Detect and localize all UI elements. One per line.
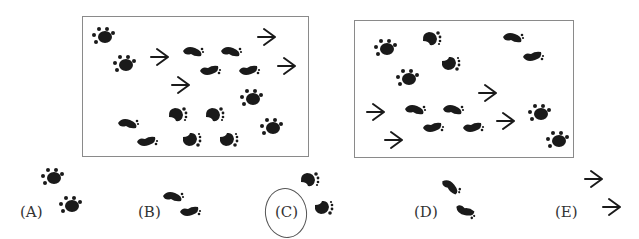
bird-track-icon [497,113,514,129]
option-b-tracks [160,190,205,220]
toe-footprint-icon [183,133,202,147]
option-d-label[interactable]: (D) [414,203,438,221]
paw-print-icon [546,131,569,148]
paw-print-icon [41,168,64,185]
footprint-icon [405,105,426,114]
paw-print-icon [260,118,283,135]
paw-print-icon [59,196,82,213]
footprint-icon [221,47,242,56]
option-e-tracks [575,165,625,220]
footprint-icon [503,33,524,42]
paw-print-icon [92,27,115,44]
bird-track-icon [278,58,295,74]
bird-track-icon [367,104,384,120]
toe-footprint-icon [220,133,239,147]
paw-print-icon [528,104,551,121]
toe-footprint-icon [301,172,320,186]
bird-track-icon [172,77,189,93]
footprint-icon [118,119,139,128]
track-panel-left [82,16,309,157]
paw-print-icon [374,39,397,56]
toe-footprint-icon [442,57,461,71]
toe-footprint-icon [169,107,188,121]
paw-print-icon [113,55,136,72]
option-b-label[interactable]: (B) [138,203,161,221]
bird-track-icon [603,199,620,215]
track-panel-right [354,20,574,158]
bird-track-icon [479,85,496,101]
bird-track-icon [151,49,168,65]
footprint-icon [183,47,204,56]
footprint-icon [443,105,464,114]
footprint-icon [463,123,484,132]
footprint-icon [523,52,544,61]
track-scene-left [83,17,310,158]
footprint-icon [239,66,260,75]
toe-footprint-icon [423,31,442,45]
footprint-icon [163,192,184,201]
toe-footprint-icon [206,107,225,121]
footprint-icon [180,207,201,216]
bird-track-icon [258,29,275,45]
footprint-icon [137,137,158,146]
track-scene-right [355,21,575,159]
toe-footprint-icon [315,201,334,215]
option-d-tracks [438,178,483,223]
option-a-tracks [40,160,90,220]
footprint-icon [200,66,221,75]
footprint-icon [423,123,444,132]
bird-track-icon [385,132,402,148]
footprint-icon [440,178,463,196]
paw-print-icon [240,89,263,106]
bird-track-icon [585,171,602,187]
footprint-icon [454,202,477,221]
paw-print-icon [396,69,419,86]
option-c-tracks [295,168,340,223]
